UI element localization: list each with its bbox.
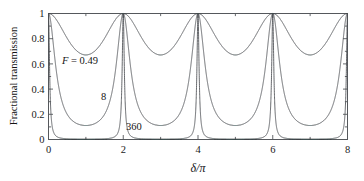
x-tick-label: 4 [195,144,201,155]
x-tick-labels: 02468 [46,144,350,155]
annotation-8: 8 [101,91,106,102]
y-tick-label: 1 [39,8,44,19]
plot-frame [49,14,348,140]
y-tick-labels: 00.20.40.60.81 [31,8,45,145]
annotation-360: 360 [126,121,142,132]
x-tick-label: 8 [345,144,350,155]
x-tick-label: 0 [46,144,51,155]
y-tick-label: 0.6 [31,59,44,70]
airy-transmission-figure: 02468 00.20.40.60.81 δ/π Fractional tran… [0,0,364,181]
y-tick-label: 0.2 [31,109,44,120]
y-axis-title: Fractional transmission [8,26,19,125]
curve-360 [49,14,348,140]
annotation-f-value: = 0.49 [68,55,98,66]
y-tick-label: 0.8 [31,33,44,44]
annotation-f-0-49: F = 0.49 [61,55,98,66]
fabry-perot-transmission-chart: 02468 00.20.40.60.81 δ/π Fractional tran… [0,0,364,181]
axis-ticks [49,14,348,140]
x-tick-label: 6 [270,144,275,155]
y-tick-label: 0 [39,134,44,145]
y-tick-label: 0.4 [31,84,45,95]
curve-8 [49,14,348,126]
x-tick-label: 2 [121,144,126,155]
curve-series-group [49,14,348,140]
x-axis-title: δ/π [191,161,207,175]
